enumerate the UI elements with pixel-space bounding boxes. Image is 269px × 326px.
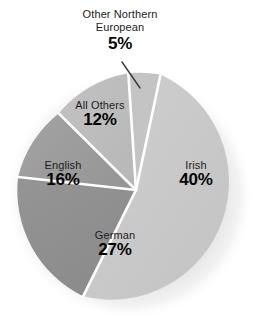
pie-chart-figure: Other NorthernEuropean 5% All Others 12%… (0, 0, 269, 326)
pie-chart-graphic (0, 0, 269, 326)
